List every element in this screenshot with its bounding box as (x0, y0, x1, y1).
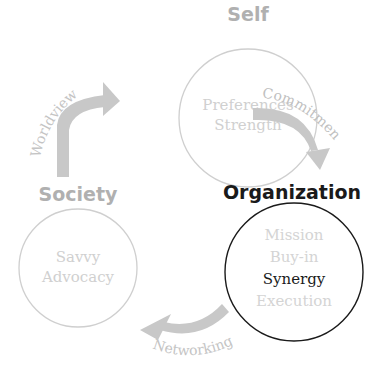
arrow-networking-label: Networking (151, 332, 235, 358)
organization-item: Buy-in (270, 248, 319, 266)
organization-item-highlighted: Synergy (263, 270, 326, 288)
arrow-commitment-head (306, 148, 330, 170)
self-title: Self (227, 3, 269, 25)
arrow-worldview-head (103, 82, 120, 116)
society-item: Savvy (56, 248, 101, 266)
society-title: Society (39, 183, 118, 205)
arrow-networking (140, 304, 229, 340)
organization-item: Execution (256, 292, 332, 310)
arrow-networking-body (160, 304, 229, 333)
cycle-diagram: Self Preferences Strength Organization M… (0, 0, 375, 378)
organization-title: Organization (223, 181, 361, 203)
society-item: Advocacy (41, 268, 115, 286)
organization-item: Mission (264, 226, 323, 244)
arrow-worldview-label: Worldview (27, 86, 80, 159)
